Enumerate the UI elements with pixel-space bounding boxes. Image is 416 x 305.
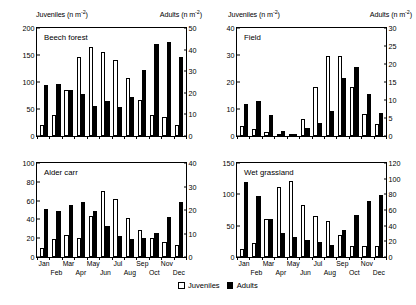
x-tick-label-month xyxy=(300,260,312,267)
x-tick-mark xyxy=(336,136,337,139)
bar-group xyxy=(238,28,250,136)
x-tick-label-month xyxy=(75,260,87,267)
x-tick-mark xyxy=(149,136,150,139)
bar-adults xyxy=(256,101,260,136)
x-tick-label-month xyxy=(63,269,75,276)
legend-swatch-adults-icon xyxy=(227,282,234,289)
bar-adults xyxy=(105,226,109,257)
x-tick-label-month: Sep xyxy=(336,260,348,267)
y-tick-label-left: 30 xyxy=(227,51,238,60)
plot-area-alder-carr: Alder carr 020406080100 010203040 JanMar… xyxy=(36,162,187,258)
bar-adults xyxy=(105,101,109,136)
x-tick-label-month: Sep xyxy=(136,260,148,267)
bar-group xyxy=(50,28,62,136)
panel-title-beech-forest: Beech forest xyxy=(44,33,88,42)
right-axis-header-field: Adults (n m-2) xyxy=(370,10,412,19)
y-tick-mark-left xyxy=(37,219,40,220)
x-tick-mark xyxy=(386,257,387,260)
y-tick-label-right: 30 xyxy=(386,24,397,33)
y-tick-mark-right xyxy=(384,210,387,211)
bar-adults xyxy=(142,70,146,136)
bar-group xyxy=(263,28,275,136)
y-tick-label-right: 40 xyxy=(186,159,197,168)
y-tick-label-right: 25 xyxy=(386,41,397,50)
bar-group xyxy=(148,28,160,136)
y-tick-label-left: 20 xyxy=(27,234,38,243)
y-tick-mark-left xyxy=(37,238,40,239)
x-tick-mark xyxy=(99,136,100,139)
bar-adults xyxy=(244,104,248,136)
bar-group xyxy=(263,163,275,257)
y-tick-label-right: 20 xyxy=(386,59,397,68)
x-tick-mark xyxy=(74,136,75,139)
bar-adults xyxy=(118,236,122,257)
x-tick-mark xyxy=(237,136,238,139)
y-tick-label-left: 20 xyxy=(227,78,238,87)
bar-group xyxy=(312,28,324,136)
bar-adults xyxy=(69,90,73,136)
y-tick-mark-right xyxy=(184,186,187,187)
x-tick-label-month: Nov xyxy=(161,260,173,267)
x-tick-label-month xyxy=(173,260,185,267)
bars-alder-carr xyxy=(37,163,186,257)
y-tick-mark-left xyxy=(37,28,40,29)
bar-adults xyxy=(130,239,134,257)
bar-group xyxy=(275,163,287,257)
bar-adults xyxy=(367,94,371,136)
bar-group xyxy=(87,163,99,257)
y-tick-mark-right xyxy=(384,118,387,119)
bar-group xyxy=(50,163,62,257)
x-tick-mark xyxy=(112,136,113,139)
bar-adults xyxy=(93,106,97,136)
bar-adults xyxy=(93,211,97,257)
y-tick-mark-right xyxy=(384,63,387,64)
y-tick-label-left: 150 xyxy=(23,51,38,60)
bar-group xyxy=(87,28,99,136)
x-tick-label-month: Oct xyxy=(148,269,160,276)
x-tick-mark xyxy=(299,136,300,139)
bar-adults xyxy=(44,209,48,257)
y-tick-label-left: 50 xyxy=(27,105,38,114)
y-tick-label-left: 40 xyxy=(27,215,38,224)
bar-adults xyxy=(154,233,158,257)
legend-swatch-juveniles-icon xyxy=(178,282,185,289)
x-tick-label-month xyxy=(361,269,373,276)
bar-adults xyxy=(330,245,334,257)
bar-group xyxy=(287,28,299,136)
x-tick-label-month xyxy=(136,269,148,276)
panel-alder-carr: Alder carr 020406080100 010203040 JanMar… xyxy=(0,150,208,280)
bar-group xyxy=(336,28,348,136)
y-tick-mark-right xyxy=(384,225,387,226)
bar-adults xyxy=(318,242,322,257)
x-tick-mark xyxy=(186,136,187,139)
legend-label-juveniles: Juveniles xyxy=(188,281,220,290)
bars-beech-forest xyxy=(37,28,186,136)
plot-area-wet-grassland: Wet grassland 050100150 020406080100120 … xyxy=(236,162,387,258)
x-tick-label-month: Nov xyxy=(361,260,373,267)
y-tick-label-left: 50 xyxy=(227,221,238,230)
y-tick-label-right: 30 xyxy=(186,67,197,76)
bar-adults xyxy=(342,230,346,257)
y-tick-label-left: 150 xyxy=(223,159,238,168)
bar-group xyxy=(299,28,311,136)
bar-group xyxy=(63,28,75,136)
x-tick-mark xyxy=(124,136,125,139)
x-tick-mark xyxy=(174,136,175,139)
bar-group xyxy=(148,163,160,257)
x-tick-label-month xyxy=(312,269,324,276)
x-tick-label-month: Dec xyxy=(173,269,185,276)
y-tick-label-right: 40 xyxy=(386,221,397,230)
bar-group xyxy=(99,163,111,257)
bar-adults xyxy=(305,240,309,257)
y-tick-mark-left xyxy=(237,163,240,164)
x-tick-label-month xyxy=(250,260,262,267)
bar-group xyxy=(336,163,348,257)
bar-adults xyxy=(367,201,371,257)
bar-group xyxy=(348,163,360,257)
bar-adults xyxy=(69,205,73,257)
x-tick-label-month xyxy=(336,269,348,276)
x-tick-label-month: Mar xyxy=(62,260,74,267)
y-tick-mark-left xyxy=(37,82,40,83)
y-tick-mark-left xyxy=(237,225,240,226)
x-tick-label-month xyxy=(238,269,250,276)
